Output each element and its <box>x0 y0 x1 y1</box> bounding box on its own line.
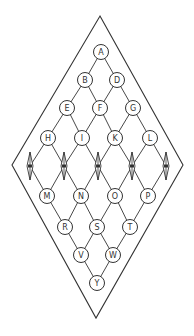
node-label: L <box>148 134 153 143</box>
node-label: D <box>114 76 120 85</box>
node-L: L <box>143 131 158 146</box>
node-M: M <box>40 189 55 204</box>
node-label: K <box>112 134 118 143</box>
node-label: Y <box>94 279 100 288</box>
node-label: G <box>130 104 136 113</box>
node-T: T <box>123 220 138 235</box>
node-I: I <box>75 131 90 146</box>
node-N: N <box>74 189 89 204</box>
markers <box>27 152 169 180</box>
node-label: H <box>45 134 51 143</box>
node-E: E <box>60 101 75 116</box>
node-label: R <box>62 223 68 232</box>
node-W: W <box>106 248 121 263</box>
node-label: N <box>78 192 84 201</box>
node-label: M <box>44 192 51 201</box>
node-label: E <box>64 104 69 113</box>
junction-marker-icon <box>163 152 169 180</box>
junction-marker-icon <box>27 152 33 180</box>
node-H: H <box>41 131 56 146</box>
lattice-diagram: ABDEFGHIKLMNOPRSTVWY <box>0 0 194 336</box>
node-S: S <box>90 220 105 235</box>
junction-marker-icon <box>95 152 101 180</box>
junction-marker-icon <box>129 152 135 180</box>
junction-marker-icon <box>61 152 67 180</box>
node-label: B <box>82 76 88 85</box>
node-P: P <box>141 189 156 204</box>
node-V: V <box>74 248 89 263</box>
node-label: O <box>112 192 118 201</box>
node-G: G <box>126 101 141 116</box>
node-A: A <box>94 45 109 60</box>
node-B: B <box>78 73 93 88</box>
node-D: D <box>110 73 125 88</box>
node-R: R <box>58 220 73 235</box>
node-label: F <box>98 104 103 113</box>
node-Y: Y <box>90 276 105 291</box>
node-F: F <box>93 101 108 116</box>
node-K: K <box>108 131 123 146</box>
node-label: T <box>127 223 133 232</box>
node-label: S <box>94 223 99 232</box>
node-label: P <box>146 192 151 201</box>
node-label: A <box>98 48 104 57</box>
node-O: O <box>108 189 123 204</box>
node-label: I <box>81 134 83 143</box>
node-label: V <box>78 251 84 260</box>
node-label: W <box>109 251 117 260</box>
